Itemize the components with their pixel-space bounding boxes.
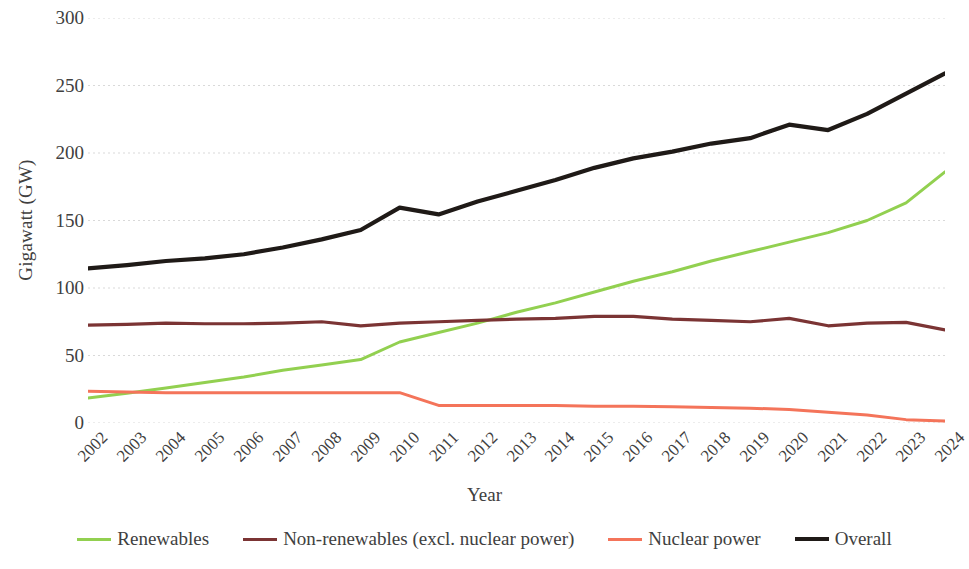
- y-axis-tick-labels: 050100150200250300: [38, 0, 84, 440]
- series-line-renewables: [88, 172, 945, 398]
- y-axis-tick-label: 50: [38, 345, 84, 367]
- legend-swatch-line-icon: [795, 537, 829, 541]
- series-line-overall: [88, 73, 945, 268]
- legend-item[interactable]: Renewables: [77, 528, 209, 550]
- series-line-nuclear-power: [88, 391, 945, 421]
- series-line-non-renewables-excl-nuclear-power: [88, 316, 945, 330]
- legend-swatch-line-icon: [77, 538, 111, 541]
- y-axis-tick-label: 250: [38, 75, 84, 97]
- series-lines: [88, 18, 945, 423]
- x-axis-tick-labels: 2002200320042005200620072008200920102011…: [0, 428, 969, 492]
- legend-item-label: Renewables: [117, 528, 209, 550]
- y-axis-tick-label: 100: [38, 277, 84, 299]
- legend-swatch-line-icon: [608, 538, 642, 541]
- chart-legend: RenewablesNon-renewables (excl. nuclear …: [0, 528, 969, 550]
- y-axis-tick-label: 150: [38, 210, 84, 232]
- y-axis-tick-label: 300: [38, 7, 84, 29]
- legend-item[interactable]: Non-renewables (excl. nuclear power): [243, 528, 574, 550]
- line-chart: Gigawatt (GW) 050100150200250300 2002200…: [0, 0, 969, 569]
- legend-item-label: Non-renewables (excl. nuclear power): [283, 528, 574, 550]
- plot-area: [88, 18, 945, 423]
- legend-item[interactable]: Nuclear power: [608, 528, 760, 550]
- y-axis-title-label: Gigawatt (GW): [15, 159, 37, 280]
- legend-swatch-line-icon: [243, 538, 277, 541]
- x-axis-title: Year: [0, 484, 969, 506]
- legend-item-label: Nuclear power: [648, 528, 760, 550]
- legend-item[interactable]: Overall: [795, 528, 892, 550]
- legend-item-label: Overall: [835, 528, 892, 550]
- y-axis-tick-label: 200: [38, 142, 84, 164]
